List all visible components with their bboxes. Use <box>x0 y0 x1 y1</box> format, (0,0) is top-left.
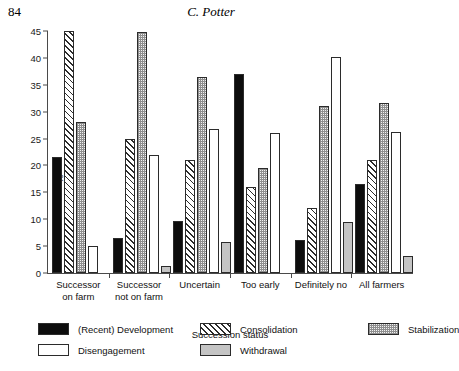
bar <box>185 160 195 273</box>
legend-label: Consolidation <box>240 324 298 335</box>
bar <box>246 187 256 273</box>
legend-item: (Recent) Development <box>38 323 173 335</box>
bar <box>295 240 305 273</box>
bar <box>64 31 74 273</box>
bar <box>270 133 280 273</box>
legend-label: Stabilization <box>408 324 459 335</box>
bar-group <box>295 31 355 273</box>
x-group-tick <box>109 273 110 278</box>
legend-swatch <box>200 323 231 335</box>
y-tick-label: 0 <box>2 268 48 279</box>
y-tick-label: 5 <box>2 241 48 252</box>
bar <box>88 246 98 273</box>
x-group-tick <box>291 273 292 278</box>
y-axis-line <box>47 31 48 274</box>
bar-group <box>355 31 415 273</box>
bar-chart-plot-area: 051015202530354045 % Successoron farmSuc… <box>48 31 412 273</box>
x-category-label-line: not on farm <box>103 291 176 303</box>
y-tick-mark <box>43 84 48 85</box>
bar-group <box>173 31 233 273</box>
x-group-tick <box>169 273 170 278</box>
bar <box>258 168 268 273</box>
y-tick-label: 40 <box>2 52 48 63</box>
bar <box>113 238 123 273</box>
bar <box>343 222 353 273</box>
bar-group <box>113 31 173 273</box>
legend-label: Withdrawal <box>240 345 287 356</box>
legend-swatch <box>200 344 231 356</box>
legend-label: Disengagement <box>78 345 145 356</box>
bar <box>197 77 207 273</box>
legend-item: Consolidation <box>200 323 298 335</box>
bar <box>173 221 183 273</box>
chart-legend: (Recent) DevelopmentConsolidationStabili… <box>38 323 410 365</box>
bar <box>76 122 86 273</box>
bar <box>161 266 171 273</box>
y-tick-mark <box>43 111 48 112</box>
bar <box>137 32 147 273</box>
bar <box>391 132 401 273</box>
legend-label: (Recent) Development <box>78 324 173 335</box>
bar <box>149 155 159 273</box>
y-tick-mark <box>43 57 48 58</box>
y-tick-mark <box>43 246 48 247</box>
y-tick-label: 25 <box>2 133 48 144</box>
y-tick-label: 15 <box>2 187 48 198</box>
bar-group <box>52 31 112 273</box>
bar <box>367 160 377 273</box>
y-tick-label: 35 <box>2 79 48 90</box>
y-tick-label: 10 <box>2 214 48 225</box>
bar <box>234 74 244 273</box>
y-tick-mark <box>43 138 48 139</box>
legend-item: Disengagement <box>38 344 145 356</box>
bar <box>379 103 389 273</box>
y-tick-mark <box>43 192 48 193</box>
bar <box>209 129 219 273</box>
x-category-label: All farmers <box>345 279 418 291</box>
x-group-tick <box>230 273 231 278</box>
bar <box>355 184 365 273</box>
y-tick-label: 30 <box>2 106 48 117</box>
legend-swatch <box>368 323 399 335</box>
y-tick-label: 20 <box>2 160 48 171</box>
legend-item: Stabilization <box>368 323 459 335</box>
bar <box>52 157 62 273</box>
y-tick-mark <box>43 165 48 166</box>
bar <box>319 106 329 273</box>
legend-item: Withdrawal <box>200 344 287 356</box>
bar <box>307 208 317 273</box>
x-group-tick <box>351 273 352 278</box>
legend-swatch <box>38 344 69 356</box>
running-head: C. Potter <box>0 4 422 20</box>
y-tick-mark <box>43 219 48 220</box>
bar <box>403 256 413 273</box>
y-tick-label: 45 <box>2 26 48 37</box>
page-header: 84 C. Potter <box>0 0 422 24</box>
legend-swatch <box>38 323 69 335</box>
x-category-label-line: All farmers <box>345 279 418 291</box>
bar <box>221 242 231 273</box>
bar <box>125 139 135 273</box>
y-tick-mark <box>43 273 48 274</box>
bar <box>331 57 341 273</box>
bar-group <box>234 31 294 273</box>
y-tick-mark <box>43 31 48 32</box>
